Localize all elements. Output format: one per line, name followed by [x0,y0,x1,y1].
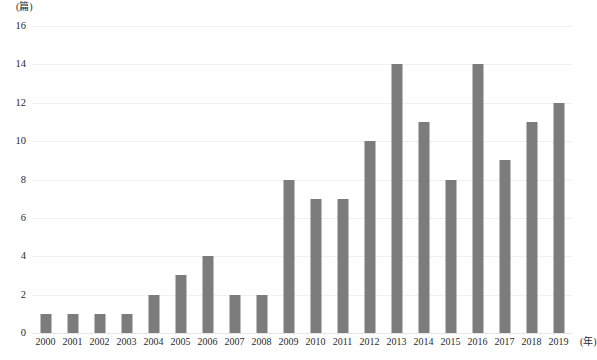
bar[interactable] [391,64,402,333]
bar[interactable] [148,295,159,333]
bar[interactable] [67,314,78,333]
y-axis-tick-label: 8 [21,174,26,185]
x-axis-tick-label: 2013 [387,336,407,348]
bar-slot [491,26,518,333]
x-axis-tick-label: 2002 [90,336,110,348]
bar-slot [59,26,86,333]
x-axis-tick-label: 2015 [441,336,461,348]
y-axis-tick-label: 10 [16,136,27,147]
bar-slot [194,26,221,333]
x-axis-tick-label: 2001 [63,336,83,348]
y-axis-tick-label: 14 [16,59,27,70]
x-axis-tick-label: 2000 [36,336,56,348]
bar[interactable] [229,295,240,333]
bar[interactable] [121,314,132,333]
bar-slot [221,26,248,333]
x-axis-tick-label: 2019 [549,336,569,348]
y-axis-tick-label: 0 [21,328,26,339]
x-axis-tick-label: 2018 [522,336,542,348]
x-axis-tick-label: 2005 [171,336,191,348]
x-axis-tick-label: 2004 [144,336,164,348]
bar-slot [383,26,410,333]
x-axis-tick-label: 2014 [414,336,434,348]
x-axis-tick-label: 2003 [117,336,137,348]
x-axis-tick-label: 2008 [252,336,272,348]
x-axis-tick-label: 2011 [333,336,353,348]
bar-slot [302,26,329,333]
bar-slot [518,26,545,333]
bar[interactable] [553,103,564,333]
x-axis-tick-label: 2012 [360,336,380,348]
y-axis-tick-label: 4 [21,251,26,262]
bars-layer [32,26,572,333]
plot-area: 0246810121416 [32,26,572,333]
bar-slot [32,26,59,333]
x-axis-unit-label: (年) [580,336,597,348]
x-axis-tick-label: 2007 [225,336,245,348]
x-axis-tick-label: 2009 [279,336,299,348]
y-axis-tick-label: 6 [21,213,26,224]
bar-slot [545,26,572,333]
x-axis-tick-label: 2006 [198,336,218,348]
bar-slot [464,26,491,333]
bar[interactable] [256,295,267,333]
y-axis-tick-label: 16 [16,21,27,32]
bar[interactable] [40,314,51,333]
bar-slot [437,26,464,333]
bar[interactable] [364,141,375,333]
bar-slot [329,26,356,333]
bar[interactable] [175,275,186,333]
bar[interactable] [472,64,483,333]
bar[interactable] [445,180,456,334]
bar-slot [140,26,167,333]
bar-slot [86,26,113,333]
bar[interactable] [526,122,537,333]
bar[interactable] [499,160,510,333]
bar-slot [248,26,275,333]
y-axis-tick-label: 12 [16,98,27,109]
bar[interactable] [418,122,429,333]
x-axis-tick-labels: (年) 200020012002200320042005200620072008… [32,333,572,353]
x-axis-tick-label: 2017 [495,336,515,348]
bar-slot [356,26,383,333]
bar[interactable] [283,180,294,334]
bar[interactable] [310,199,321,333]
bar-slot [275,26,302,333]
y-axis-unit-label: (篇) [16,0,33,14]
bar-slot [113,26,140,333]
x-axis-tick-label: 2010 [306,336,326,348]
bar[interactable] [202,256,213,333]
bar[interactable] [337,199,348,333]
y-axis-tick-label: 2 [21,289,26,300]
bar-slot [410,26,437,333]
x-axis-tick-label: 2016 [468,336,488,348]
bar-slot [167,26,194,333]
bar[interactable] [94,314,105,333]
